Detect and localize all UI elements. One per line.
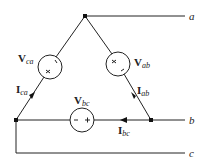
arrow-ibc-icon	[120, 117, 127, 123]
vbc-label: Vbc	[74, 94, 90, 108]
source-vab	[106, 52, 130, 76]
node-left	[14, 118, 18, 122]
terminal-a-label: a	[189, 10, 195, 22]
ica-label: Ica	[16, 83, 28, 97]
terminal-c-label: c	[189, 147, 194, 159]
wire-ab-upper	[85, 16, 112, 54]
vca-label: Vca	[18, 52, 34, 66]
terminal-b-label: b	[189, 114, 195, 126]
ibc-label: Ibc	[118, 124, 130, 138]
vab-label: Vab	[134, 56, 150, 70]
source-vca	[38, 55, 62, 79]
source-vbc	[70, 108, 94, 132]
node-right	[149, 118, 153, 122]
iab-label: Iab	[137, 84, 149, 98]
wire-c	[16, 120, 185, 153]
delta-circuit-diagram: a b c Vca Vab Vbc Ica Iab Ibc	[0, 0, 207, 163]
wire-ca-upper	[56, 16, 85, 57]
node-top	[83, 14, 87, 18]
